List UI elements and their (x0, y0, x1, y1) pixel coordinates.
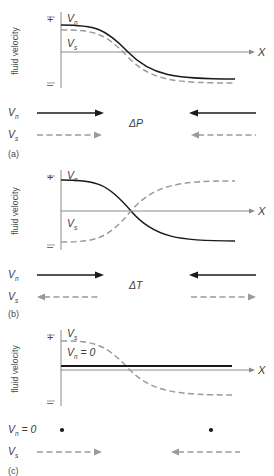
y-axis-label-a: fluid velocity (10, 14, 20, 88)
curves-c (0, 318, 274, 418)
legend-arrows-vs-a (0, 126, 274, 146)
legend-arrowhead-left-vs-c (94, 449, 102, 456)
x-axis-label-b: X (258, 206, 265, 217)
plot-c: fluid velocity + – Vs Vn = 0 X (0, 318, 274, 418)
zero-dot-left-icon (60, 428, 64, 432)
curve-label-vs-c: Vs (67, 328, 77, 342)
legend-arrowhead-left-vs-b (37, 294, 45, 301)
y-axis-label-b: fluid velocity (10, 174, 20, 248)
legend-arrowhead-left-vs-a (94, 132, 102, 139)
y-axis-minus-a: – (47, 79, 53, 90)
legend-arrowhead-left-vn-a (95, 110, 104, 117)
plot-b: fluid velocity + – Vn Vs X (0, 158, 274, 263)
curve-label-vs-b: Vs (67, 218, 77, 232)
y-axis-minus-c: – (47, 397, 53, 408)
panel-b: fluid velocity + – Vn Vs X Vn Vs (0, 158, 274, 318)
legend-arrows-vs-b (0, 288, 274, 308)
panel-a: fluid velocity + – Vn Vs X Vn Vs (0, 0, 274, 158)
legend-row-vs-c: Vs (0, 443, 274, 463)
legend-arrowhead-right-vs-c (171, 449, 179, 456)
legend-b: Vn Vs ΔT (b) (0, 266, 274, 318)
y-axis-plus-a: + (47, 14, 53, 25)
legend-arrows-vs-c (0, 443, 274, 463)
legend-c: Vn = 0 Vs (c) (0, 421, 274, 475)
y-axis-minus-b: – (47, 241, 53, 252)
legend-row-vn-c: Vn = 0 (0, 421, 274, 441)
curve-label-vn-a: Vn (67, 13, 78, 27)
curve-label-vn-c: Vn = 0 (67, 347, 95, 361)
x-axis-arrowhead-b (249, 209, 255, 214)
y-axis-plus-c: + (47, 332, 53, 343)
y-axis-plus-b: + (47, 172, 53, 183)
x-axis-arrowhead-c (249, 368, 255, 373)
legend-arrowhead-right-vs-b (248, 294, 256, 301)
x-axis-label-a: X (258, 47, 265, 58)
driver-label-a: ΔP (129, 118, 143, 129)
legend-arrowhead-left-vn-b (95, 272, 104, 279)
curve-vs-a (61, 30, 235, 83)
curve-label-vs-a: Vs (67, 38, 77, 52)
curves-a (0, 0, 274, 100)
curves-b (0, 158, 274, 263)
legend-arrowhead-right-vn-b (189, 272, 198, 279)
panel-tag-c: (c) (8, 467, 19, 476)
legend-arrowhead-right-vs-a (191, 132, 199, 139)
legend-arrowhead-right-vn-a (189, 110, 198, 117)
panel-c: fluid velocity + – Vs Vn = 0 X Vn = 0 Vs (0, 318, 274, 475)
plot-a: fluid velocity + – Vn Vs X (0, 0, 274, 100)
x-axis-arrowhead-a (249, 50, 255, 55)
y-axis-label-c: fluid velocity (10, 332, 20, 406)
legend-row-vs-a: Vs (0, 126, 274, 146)
zero-dot-right-icon (209, 428, 213, 432)
driver-label-b: ΔT (129, 280, 142, 291)
x-axis-label-c: X (258, 365, 265, 376)
legend-row-vs-b: Vs (0, 288, 274, 308)
legend-dots-vn-c (0, 421, 274, 441)
curve-label-vn-b: Vn (67, 170, 78, 184)
legend-a: Vn Vs ΔP (a) (0, 104, 274, 158)
